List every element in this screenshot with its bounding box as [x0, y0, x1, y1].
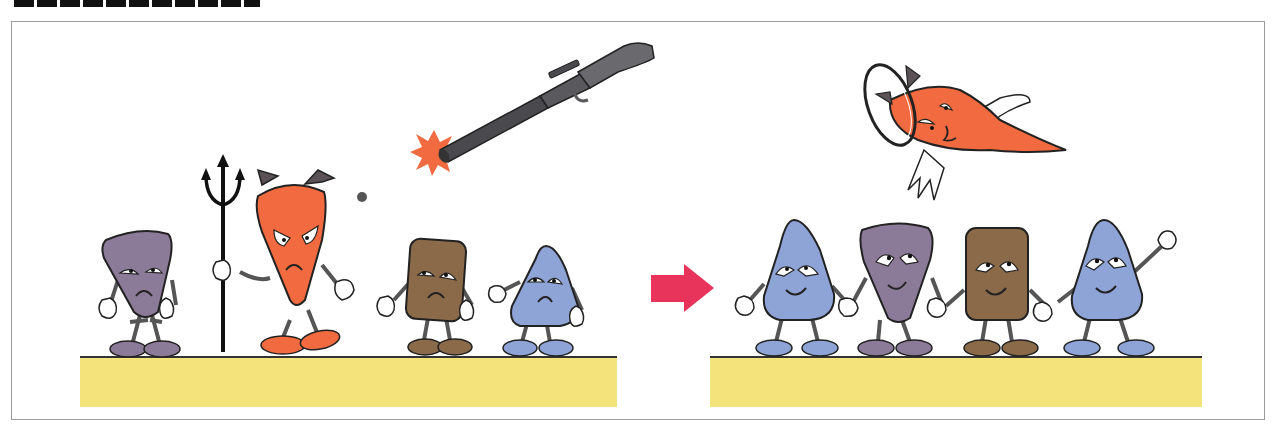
- ground-right: [710, 357, 1202, 407]
- purple-happy-character: [839, 223, 942, 356]
- brown-happy-character: [927, 228, 1052, 356]
- illustration-canvas: [0, 0, 1279, 427]
- arrow-right-icon: [651, 264, 714, 312]
- rifle-icon: [436, 43, 654, 165]
- bullet-icon: [357, 192, 367, 202]
- ground-left: [80, 357, 617, 407]
- blue-happy-character: [735, 220, 848, 356]
- purple-sad-character: [99, 231, 180, 357]
- blue-happy-waving-character: [1058, 220, 1176, 356]
- angel-devil-character: [855, 58, 1066, 200]
- brown-sad-character: [377, 238, 474, 355]
- trident-icon: [201, 154, 245, 352]
- blue-sad-character: [489, 246, 584, 356]
